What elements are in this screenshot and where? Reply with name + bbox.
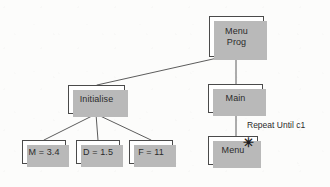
node-menu-prog[interactable]: Menu Prog — [209, 16, 264, 57]
connector-init-to-m — [44, 114, 96, 140]
node-f-assign[interactable]: F = 11 — [129, 140, 173, 164]
repeat-until-condition-label: Repeat Until c1 — [247, 120, 305, 130]
node-menu-prog-label: Menu Prog — [225, 26, 248, 48]
node-d-assign-label: D = 1.5 — [83, 147, 113, 158]
node-f-assign-label: F = 11 — [138, 147, 164, 158]
node-m-assign[interactable]: M = 3.4 — [22, 140, 66, 164]
node-main[interactable]: Main — [208, 84, 263, 113]
connector-init-to-f — [96, 114, 151, 140]
connector-init-to-d — [96, 114, 98, 140]
connector-prog-to-initialise — [97, 57, 222, 85]
node-m-assign-label: M = 3.4 — [29, 147, 60, 158]
node-menu-label: Menu — [222, 145, 245, 156]
node-initialise-label: Initialise — [80, 94, 114, 105]
node-d-assign[interactable]: D = 1.5 — [76, 140, 120, 164]
structure-chart-diagram: Menu Prog Initialise Main M = 3.4 D = 1.… — [0, 0, 330, 187]
node-main-label: Main — [226, 93, 246, 104]
iteration-asterisk-icon: ✳ — [243, 136, 254, 149]
node-initialise[interactable]: Initialise — [68, 85, 125, 114]
